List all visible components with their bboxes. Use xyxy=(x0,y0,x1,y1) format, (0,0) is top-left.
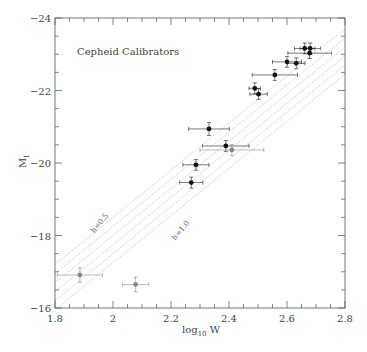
reference-line xyxy=(55,56,345,292)
y-tick-label: −16 xyxy=(30,303,51,314)
data-point xyxy=(288,58,305,69)
x-tick-label: 1.8 xyxy=(47,313,63,324)
tick-labels: 1.822.22.42.62.8−16−18−20−22−24 xyxy=(30,13,353,324)
data-point xyxy=(123,277,149,292)
x-tick-label: 2 xyxy=(110,313,116,324)
chart: 1.822.22.42.62.8−16−18−20−22−24 Cepheid … xyxy=(0,0,367,352)
reference-line xyxy=(55,38,345,274)
x-axis-label: log10 W xyxy=(182,324,221,338)
x-tick-label: 2.4 xyxy=(221,313,237,324)
x-tick-label: 2.8 xyxy=(337,313,353,324)
y-tick-label: −24 xyxy=(30,13,51,24)
line-labels: h=0.5h=1.0 xyxy=(89,211,192,242)
reference-lines xyxy=(55,29,345,310)
line-label: h=1.0 xyxy=(170,218,192,242)
y-tick-label: −20 xyxy=(30,158,51,169)
data-point xyxy=(183,159,209,170)
reference-line xyxy=(55,74,345,310)
y-axis-label: MI xyxy=(17,155,31,168)
x-tick-label: 2.2 xyxy=(163,313,179,324)
data-point xyxy=(189,122,230,135)
chart-title: Cepheid Calibrators xyxy=(77,46,179,57)
y-tick-label: −18 xyxy=(30,231,51,242)
data-point xyxy=(180,177,203,188)
data-point xyxy=(250,89,267,100)
x-tick-label: 2.6 xyxy=(279,313,295,324)
data-point xyxy=(57,268,102,283)
y-tick-label: −22 xyxy=(30,86,51,97)
reference-line xyxy=(55,65,345,301)
line-label: h=0.5 xyxy=(89,211,111,235)
data-point xyxy=(252,69,297,80)
data-points xyxy=(57,43,331,292)
